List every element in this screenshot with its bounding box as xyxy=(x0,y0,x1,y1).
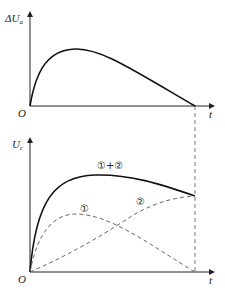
curve-1 xyxy=(30,214,195,272)
sum-curve xyxy=(30,175,195,272)
upper-xlabel: t xyxy=(209,108,213,120)
curve-1-label: ① xyxy=(80,203,89,214)
curve-2 xyxy=(30,196,195,272)
lower-xlabel: t xyxy=(209,274,213,286)
lower-origin-label: O xyxy=(18,273,26,285)
curve-2-label: ② xyxy=(136,196,145,207)
figure: ΔUa O t Uc ①+② ① ② O t xyxy=(0,0,225,294)
delta-ua-curve xyxy=(30,49,195,106)
sum-curve-label: ①+② xyxy=(97,160,123,171)
upper-ylabel: ΔUa xyxy=(4,12,23,26)
lower-ylabel: Uc xyxy=(12,138,24,152)
upper-chart: ΔUa O t xyxy=(4,12,213,120)
upper-origin-label: O xyxy=(18,107,26,119)
lower-chart: Uc ①+② ① ② O t xyxy=(12,138,213,286)
